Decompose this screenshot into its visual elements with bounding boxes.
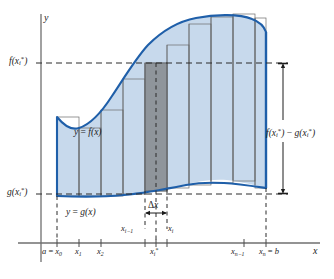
xn-minus-1-label: xn−1 bbox=[231, 247, 244, 257]
a-equals-x0-label: a = x0 bbox=[42, 247, 62, 257]
x1-label: x1 bbox=[75, 247, 82, 257]
x-i-star-label: xi* bbox=[150, 247, 158, 258]
curve-f-label: y = f(x) bbox=[74, 128, 102, 138]
x-axis-label: x bbox=[313, 246, 317, 256]
x2-label: x2 bbox=[97, 247, 104, 257]
f-level-label: f(xi*) bbox=[9, 56, 27, 67]
x-i-minus-1-label: xi−1 bbox=[121, 224, 133, 234]
delta-x-label: Δx bbox=[148, 201, 158, 211]
curve-g-label: y = g(x) bbox=[66, 208, 96, 218]
xn-equals-b-label: xn = b bbox=[259, 247, 279, 257]
g-level-label: g(xi*) bbox=[7, 187, 28, 198]
figure-canvas bbox=[0, 0, 334, 279]
height-difference-label: f(xi*) − g(xi*) bbox=[266, 128, 315, 139]
y-axis-label: y bbox=[44, 13, 48, 23]
x-i-label: xi bbox=[168, 224, 173, 234]
area-between-curves-figure: y x f(xi*) g(xi*) y = f(x) y = g(x) f(xi… bbox=[0, 0, 334, 279]
